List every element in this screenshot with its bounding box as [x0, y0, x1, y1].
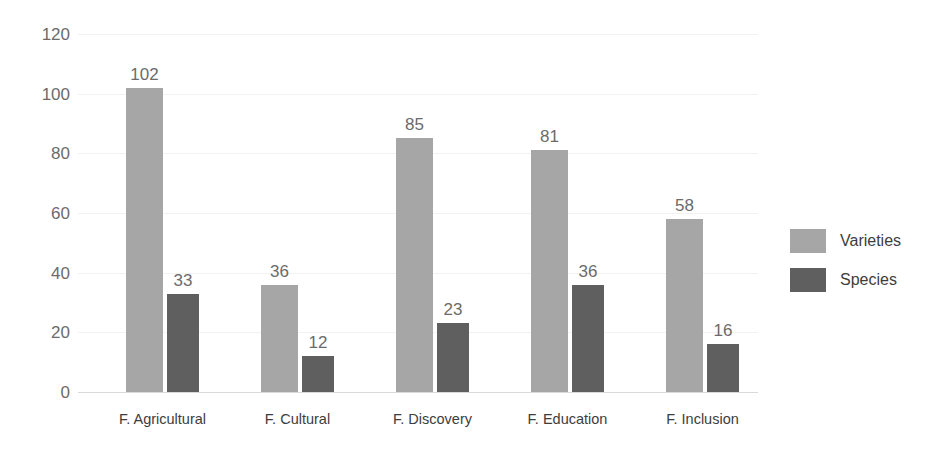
- bar-value-label: 58: [675, 197, 694, 214]
- x-axis-tick-label: F. Education: [528, 412, 608, 427]
- bar-species-2[interactable]: 23: [437, 323, 469, 392]
- legend-item-varieties[interactable]: Varieties: [790, 229, 901, 253]
- x-axis-tick-label: F. Agricultural: [119, 412, 206, 427]
- y-axis-tick-label: 80: [24, 145, 70, 162]
- bar-group: 8523: [396, 34, 469, 392]
- x-axis-baseline: [78, 392, 758, 393]
- bar-varieties-2[interactable]: 85: [396, 138, 433, 392]
- x-axis-tick-label: F. Discovery: [393, 412, 472, 427]
- legend-swatch-icon: [790, 268, 826, 292]
- y-axis-tick-label: 0: [24, 384, 70, 401]
- y-axis-tick-label: 120: [24, 26, 70, 43]
- x-axis-tick-label: F. Inclusion: [666, 412, 739, 427]
- legend-swatch-icon: [790, 229, 826, 253]
- bar-value-label: 102: [130, 66, 158, 83]
- bar-group: 8136: [531, 34, 604, 392]
- bar-value-label: 12: [309, 334, 328, 351]
- bar-value-label: 16: [714, 322, 733, 339]
- bar-varieties-0[interactable]: 102: [126, 88, 163, 392]
- bar-value-label: 23: [444, 301, 463, 318]
- bar-value-label: 36: [270, 263, 289, 280]
- y-axis-tick-label: 20: [24, 324, 70, 341]
- y-axis: 020406080100120: [14, 0, 70, 455]
- legend: VarietiesSpecies: [790, 229, 901, 307]
- bar-species-0[interactable]: 33: [167, 294, 199, 392]
- y-axis-tick-label: 100: [24, 85, 70, 102]
- legend-item-species[interactable]: Species: [790, 268, 901, 292]
- bar-value-label: 85: [405, 116, 424, 133]
- legend-label: Species: [840, 272, 897, 288]
- bar-value-label: 33: [174, 272, 193, 289]
- y-axis-tick-label: 60: [24, 205, 70, 222]
- bar-group: 5816: [666, 34, 739, 392]
- bar-varieties-1[interactable]: 36: [261, 285, 298, 392]
- bar-value-label: 36: [579, 263, 598, 280]
- bar-value-label: 81: [540, 128, 559, 145]
- bar-varieties-3[interactable]: 81: [531, 150, 568, 392]
- bar-species-4[interactable]: 16: [707, 344, 739, 392]
- bar-group: 3612: [261, 34, 334, 392]
- x-axis-tick-label: F. Cultural: [265, 412, 330, 427]
- bar-group: 10233: [126, 34, 199, 392]
- bar-species-3[interactable]: 36: [572, 285, 604, 392]
- bar-species-1[interactable]: 12: [302, 356, 334, 392]
- bar-chart: 020406080100120 102333612852381365816 F.…: [0, 0, 952, 455]
- y-axis-tick-label: 40: [24, 264, 70, 281]
- legend-label: Varieties: [840, 233, 901, 249]
- bar-varieties-4[interactable]: 58: [666, 219, 703, 392]
